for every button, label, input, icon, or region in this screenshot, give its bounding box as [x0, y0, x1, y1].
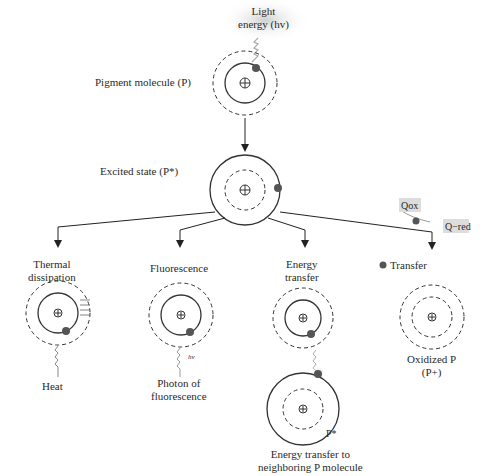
q-ox-label: Qox: [401, 199, 418, 212]
excited-state-molecule: [210, 155, 282, 225]
pigment-molecule: [213, 51, 277, 115]
oxidized-label: Oxidized P(P+): [407, 353, 456, 379]
diagram-canvas: [0, 0, 496, 476]
energy-transfer-title: Energytransfer: [285, 258, 319, 284]
light-energy-label: Lightenergy (hv): [238, 5, 289, 31]
thermal-molecule: [26, 281, 90, 377]
energy-transfer-result: Energy transfer toneighboring P molecule: [258, 448, 363, 474]
excited-state-label: Excited state (P*): [100, 165, 178, 178]
oxidized-molecule: [380, 262, 465, 350]
energy-transfer-molecule: [267, 288, 339, 445]
fluorescence-title: Fluorescence: [150, 262, 208, 275]
hv-label: hv: [188, 351, 195, 364]
electron-icon: [274, 184, 282, 192]
p-star-label: P*: [326, 427, 337, 440]
fluorescence-molecule: [149, 283, 213, 377]
pigment-label: Pigment molecule (P): [95, 76, 191, 89]
transfer-title: Transfer: [390, 259, 427, 272]
photon-label: Photon offluorescence: [151, 377, 207, 403]
q-red-label: Q−red: [445, 220, 471, 233]
thermal-title: Thermaldissipation: [28, 258, 76, 284]
electron-icon: [252, 64, 260, 72]
heat-label: Heat: [42, 380, 63, 393]
